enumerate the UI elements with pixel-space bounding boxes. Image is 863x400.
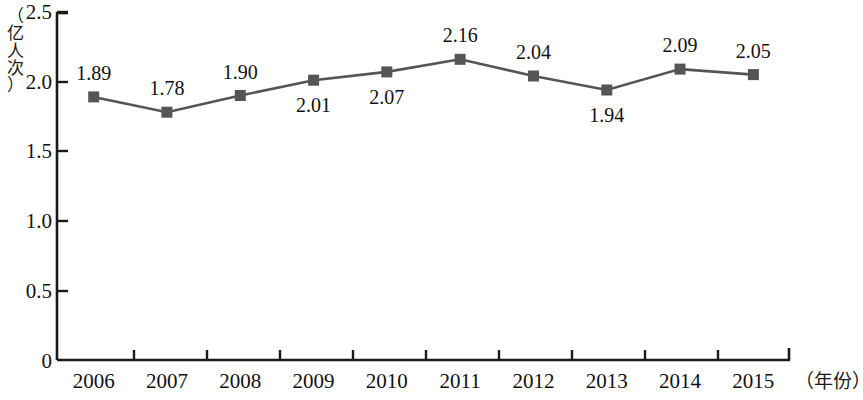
y-tick-label-0.5: 0.5 — [8, 281, 52, 302]
y-tick-label-1.5: 1.5 — [8, 141, 52, 162]
x-axis-ticks — [134, 350, 718, 360]
data-point-marker — [748, 69, 759, 80]
y-axis-ticks — [57, 12, 68, 291]
x-axis-unit-label: （年份） — [795, 372, 863, 391]
data-point-marker — [675, 64, 686, 75]
data-point-marker — [528, 71, 539, 82]
x-tick-label-2015: 2015 — [708, 371, 798, 392]
y-tick-label-2.0: 2.0 — [8, 72, 52, 93]
data-point-label-2008: 1.90 — [195, 62, 285, 82]
y-tick-label-2.5: 2.5 — [8, 2, 52, 23]
data-point-marker — [88, 91, 99, 102]
data-point-label-2012: 2.04 — [488, 42, 578, 62]
data-point-marker — [455, 54, 466, 65]
data-point-marker — [381, 66, 392, 77]
y-tick-label-1.0: 1.0 — [8, 211, 52, 232]
data-point-label-2010: 2.07 — [342, 87, 432, 107]
data-point-label-2013: 1.94 — [562, 105, 652, 125]
data-point-label-2015: 2.05 — [708, 41, 798, 61]
data-point-marker — [308, 75, 319, 86]
data-point-marker — [235, 90, 246, 101]
y-tick-label-0: 0 — [8, 351, 52, 372]
data-point-marker — [161, 107, 172, 118]
data-point-marker — [601, 85, 612, 96]
